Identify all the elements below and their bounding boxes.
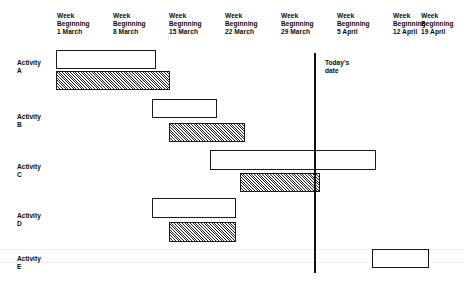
row-label-activity-e: Activity E: [17, 255, 41, 272]
column-header-line3: 8 March: [113, 28, 146, 36]
row-label-line1: Activity: [17, 59, 41, 67]
row-label-line1: Activity: [17, 212, 41, 220]
column-header-line3: 1 March: [57, 28, 90, 36]
row-label-line1: Activity: [17, 163, 41, 171]
column-header-line3: 29 March: [281, 28, 314, 36]
row-label-line1: Activity: [17, 255, 41, 263]
column-header-line3: 19 April: [421, 28, 454, 36]
bar-activity-d-planned: [152, 198, 236, 218]
row-label-line2: C: [17, 171, 41, 179]
row-label-line2: B: [17, 121, 41, 129]
column-header-line2: Beginning: [281, 20, 314, 28]
column-header-line1: Week: [225, 12, 258, 20]
bar-activity-c-actual: [240, 173, 320, 192]
column-header-line3: 5 April: [337, 28, 370, 36]
todays-date-label: Today's date: [325, 59, 349, 76]
row-label-activity-b: Activity B: [17, 113, 41, 130]
column-header-week-2: Week Beginning 8 March: [113, 12, 146, 37]
bar-activity-a-planned: [56, 50, 156, 69]
row-label-line1: Activity: [17, 113, 41, 121]
bar-activity-b-actual: [169, 123, 245, 142]
row-label-activity-a: Activity A: [17, 59, 41, 76]
todays-date-marker-line: [314, 53, 316, 273]
row-label-activity-d: Activity D: [17, 212, 41, 229]
column-header-line1: Week: [337, 12, 370, 20]
bar-activity-b-planned: [152, 99, 217, 118]
column-header-line2: Beginning: [225, 20, 258, 28]
todays-date-line1: Today's: [325, 59, 349, 67]
column-header-week-6: Week Beginning 5 April: [337, 12, 370, 37]
column-header-line2: Beginning: [113, 20, 146, 28]
column-header-week-5: Week Beginning 29 March: [281, 12, 314, 37]
column-header-line2: Beginning: [337, 20, 370, 28]
column-header-line1: Week: [169, 12, 202, 20]
column-header-week-4: Week Beginning 22 March: [225, 12, 258, 37]
column-header-line1: Week: [57, 12, 90, 20]
column-header-week-3: Week Beginning 15 March: [169, 12, 202, 37]
column-header-line3: 15 March: [169, 28, 202, 36]
todays-date-line2: date: [325, 67, 349, 75]
column-header-line3: 22 March: [225, 28, 258, 36]
column-header-line1: Week: [281, 12, 314, 20]
bar-activity-a-actual: [56, 71, 170, 90]
column-header-line2: Beginning: [169, 20, 202, 28]
row-label-line2: E: [17, 263, 41, 271]
column-header-week-1: Week Beginning 1 March: [57, 12, 90, 37]
bar-activity-e-planned: [372, 249, 429, 268]
column-header-line1: Week: [113, 12, 146, 20]
bar-activity-d-actual: [169, 222, 236, 242]
column-header-week-8: Week Beginning 19 April: [421, 12, 454, 37]
column-header-line2: Beginning: [57, 20, 90, 28]
column-header-line1: Week: [421, 12, 454, 20]
gantt-chart: Week Beginning 1 March Week Beginning 8 …: [0, 0, 464, 296]
row-label-activity-c: Activity C: [17, 163, 41, 180]
row-label-line2: D: [17, 220, 41, 228]
column-header-line2: Beginning: [421, 20, 454, 28]
row-label-line2: A: [17, 67, 41, 75]
bar-activity-c-planned: [210, 150, 376, 170]
